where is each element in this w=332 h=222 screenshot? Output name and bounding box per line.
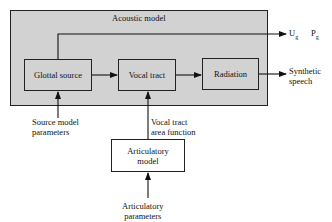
source-model-parameters-label: Source model parameters (32, 118, 79, 137)
articulatory-parameters-label: Articulatory parameters (122, 202, 164, 221)
vocal-tract-area-function-label: Vocal tract area function (151, 118, 196, 137)
connector-arrows (0, 0, 332, 222)
synthetic-speech-label: Synthetic speech (289, 67, 321, 86)
ug-label: Ug (289, 29, 298, 42)
pg-label: Pg (311, 29, 319, 42)
